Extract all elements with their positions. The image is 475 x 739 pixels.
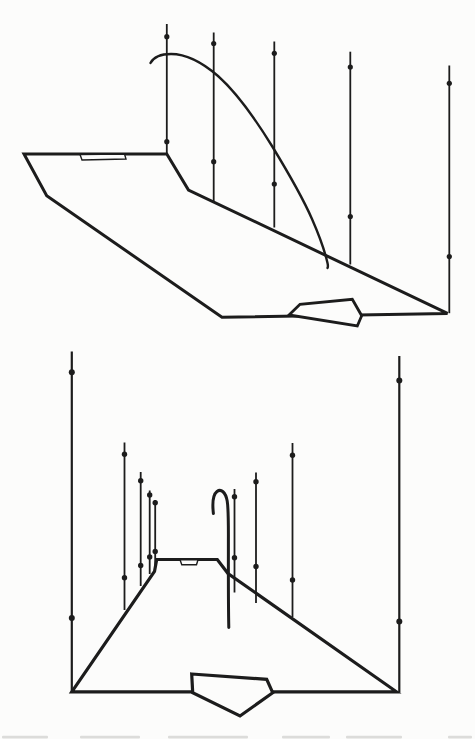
pole-dot	[164, 34, 169, 39]
pole-dot	[122, 452, 127, 457]
pole-dot	[164, 139, 169, 144]
pole-dot	[211, 41, 216, 46]
pole-dot	[290, 577, 295, 582]
pole-dot	[69, 615, 75, 621]
caption-remnant-mark	[168, 736, 248, 739]
pole-dot	[122, 575, 127, 580]
direction-pentagon	[192, 674, 273, 716]
pole-dot	[211, 159, 216, 164]
pole-dot	[447, 81, 452, 86]
measurement-pole	[290, 443, 295, 617]
caption-remnant-mark	[448, 736, 472, 739]
pole-dot	[396, 378, 402, 384]
pole-dot	[290, 453, 295, 458]
measurement-pole	[447, 66, 452, 314]
boundary-pole	[69, 352, 75, 693]
measurement-pole	[253, 473, 258, 604]
boundary-pole	[396, 356, 402, 693]
caption-remnant-mark	[2, 736, 48, 739]
road-marking	[180, 560, 198, 565]
road-surface	[24, 154, 448, 317]
measurement-pole	[164, 24, 169, 154]
pole-dot	[153, 549, 158, 554]
pole-dot	[447, 254, 452, 259]
document-page	[0, 0, 475, 739]
road-marking	[80, 154, 126, 160]
figure-oblique-view	[24, 24, 452, 326]
pole-dot	[348, 214, 353, 219]
measurement-pole	[272, 42, 277, 228]
pole-dot	[272, 51, 277, 56]
caption-remnant-mark	[282, 736, 330, 739]
pole-dot	[253, 564, 258, 569]
pole-dot	[232, 494, 237, 499]
pole-dot	[147, 554, 152, 559]
direction-pentagon	[289, 299, 362, 326]
pole-dot	[138, 478, 143, 483]
measurement-pole	[147, 491, 152, 575]
caption-remnant-mark	[80, 736, 140, 739]
caption-remnant	[2, 736, 472, 739]
pole-dot	[147, 492, 152, 497]
pole-dot	[232, 555, 237, 560]
figure-rear-view	[69, 352, 403, 717]
measurement-pole	[138, 472, 143, 586]
pole-dot	[348, 64, 353, 69]
diagram-canvas	[0, 0, 475, 739]
caption-remnant-mark	[346, 736, 402, 739]
pole-dot	[396, 619, 402, 625]
pole-dot	[138, 563, 143, 568]
measurement-pole	[348, 52, 353, 265]
pole-dot	[153, 500, 158, 505]
measurement-pole	[211, 33, 216, 202]
measurement-pole	[122, 443, 127, 611]
pole-dot	[272, 181, 277, 186]
pole-dot	[253, 479, 258, 484]
measurement-pole	[153, 500, 158, 567]
pole-dot	[69, 369, 75, 375]
